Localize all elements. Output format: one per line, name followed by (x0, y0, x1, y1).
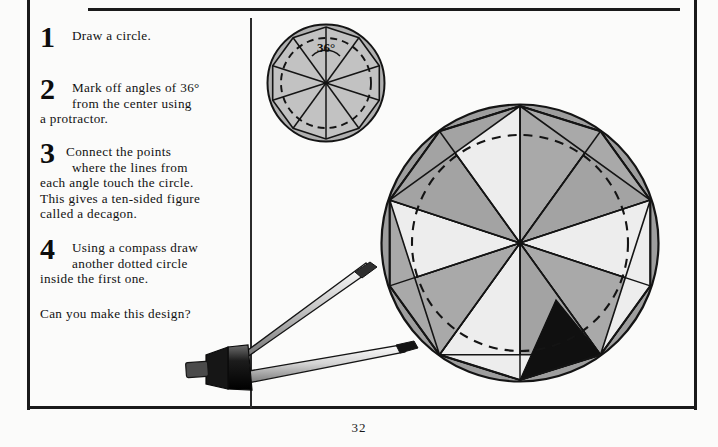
small-inner-dotted-circle (281, 38, 371, 128)
closing-question: Can you make this design? (40, 306, 245, 322)
large-sector-2 (520, 200, 650, 286)
large-sector-5 (440, 243, 521, 380)
step-2-line-2: from the center using (40, 96, 245, 112)
page-number: 32 (0, 420, 718, 436)
step-2-line-1: Mark off angles of 36° (40, 80, 245, 96)
step-number-1: 1 (40, 22, 55, 52)
large-sector-1 (520, 131, 650, 243)
step-text-3: Connect the points where the lines from … (40, 144, 245, 222)
large-chord-1 (601, 200, 651, 355)
angle-label-36-degrees: 36° (317, 40, 335, 55)
large-sector-7 (390, 200, 520, 286)
large-sector-6 (390, 243, 520, 355)
large-sector-3 (520, 243, 650, 355)
large-sector-8 (390, 131, 520, 243)
compass-hinge (228, 345, 252, 390)
step-text-1: Draw a circle. (40, 28, 245, 44)
small-decagon-outline (273, 27, 380, 139)
compass-needle-tip (396, 341, 418, 353)
instruction-step-3: 3 Connect the points where the lines fro… (40, 144, 245, 228)
large-sector-0 (520, 106, 601, 243)
step-3-line-5: called a decagon. (40, 206, 245, 222)
step-number-3: 3 (40, 138, 55, 168)
large-chord-4 (390, 106, 520, 200)
large-chord-0 (520, 106, 650, 200)
compass-handle-knob (186, 361, 209, 377)
step-1-line-1: Draw a circle. (40, 28, 245, 44)
page-border-right (694, 0, 697, 410)
step-3-line-1: Connect the points (40, 144, 245, 160)
page-border-bottom (27, 406, 697, 409)
large-sector-4 (520, 243, 601, 380)
instruction-list: 1 Draw a circle. 2 Mark off angles of 36… (40, 28, 245, 322)
step-number-4: 4 (40, 234, 55, 264)
step-number-2: 2 (40, 74, 55, 104)
angle-arc (312, 50, 340, 56)
large-outer-circle (382, 105, 659, 382)
large-sector-9 (440, 106, 521, 243)
compass-leg-lower (243, 344, 406, 383)
column-divider (250, 18, 252, 408)
large-chord-3 (390, 200, 440, 355)
compass-handle-cone (206, 347, 228, 389)
book-page: 1 Draw a circle. 2 Mark off angles of 36… (0, 0, 718, 447)
small-radial-spokes (273, 27, 380, 139)
step-text-2: Mark off angles of 36° from the center u… (40, 80, 245, 127)
step-3-line-3: each angle touch the circle. (40, 175, 245, 191)
step-2-line-3: a protractor. (40, 111, 245, 127)
small-decagon-figure: 36° (268, 25, 385, 142)
large-decagon-outline (390, 106, 651, 380)
instruction-step-4: 4 Using a compass draw another dotted ci… (40, 240, 245, 292)
compass-pencil-tip (355, 262, 377, 278)
step-3-line-2: where the lines from (40, 160, 245, 176)
step-4-line-3: inside the first one. (40, 271, 245, 287)
large-inner-dotted-circle (412, 135, 628, 351)
step-text-4: Using a compass draw another dotted circ… (40, 240, 245, 287)
page-top-rule (88, 8, 680, 11)
large-radial-spokes (390, 106, 651, 380)
step-4-line-2: another dotted circle (40, 256, 245, 272)
compass-leg-upper (243, 263, 370, 360)
small-outer-circle (268, 25, 385, 142)
instruction-step-1: 1 Draw a circle. (40, 28, 245, 68)
step-3-line-4: This gives a ten-sided figure (40, 191, 245, 207)
accent-black-triangle (520, 300, 601, 380)
page-border-left (27, 0, 30, 410)
instruction-step-2: 2 Mark off angles of 36° from the center… (40, 80, 245, 132)
large-chord-2 (440, 355, 601, 380)
step-4-line-1: Using a compass draw (40, 240, 245, 256)
large-decagon-figure (382, 105, 659, 382)
